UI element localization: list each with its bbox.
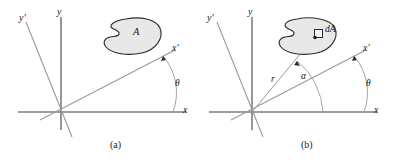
x-prime-axis-label: x' <box>363 43 370 53</box>
x-prime-axis-label: x' <box>172 43 179 53</box>
x-axis-label: x <box>183 105 187 115</box>
dA-point-marker <box>313 36 317 40</box>
radius-label-r: r <box>271 75 275 85</box>
alpha-angle-label: α <box>301 72 306 82</box>
y-prime-axis-label: y' <box>207 13 214 23</box>
x-axis-label: x <box>374 105 378 115</box>
dA-element-label: dA <box>325 25 336 35</box>
y-prime-axis-line <box>217 22 263 137</box>
alpha-arc-arrowhead <box>294 61 300 66</box>
y-axis-label: y <box>57 7 61 17</box>
y-prime-axis-label: y' <box>19 13 26 23</box>
panel-a-graphics <box>0 0 201 163</box>
y-prime-axis-line <box>26 22 72 137</box>
panel-b: x y x' y' dA r α θ (b) <box>201 0 402 163</box>
theta-angle-label: θ <box>175 79 180 89</box>
area-label-A: A <box>133 27 139 38</box>
panel-a: x y x' y' A θ (a) <box>0 0 201 163</box>
figure-container: x y x' y' A θ (a) <box>0 0 402 163</box>
panel-a-caption: (a) <box>110 140 121 150</box>
alpha-arc <box>297 61 323 112</box>
y-axis-label: y <box>248 7 252 17</box>
panel-b-caption: (b) <box>301 140 313 150</box>
theta-angle-label: θ <box>366 79 371 89</box>
